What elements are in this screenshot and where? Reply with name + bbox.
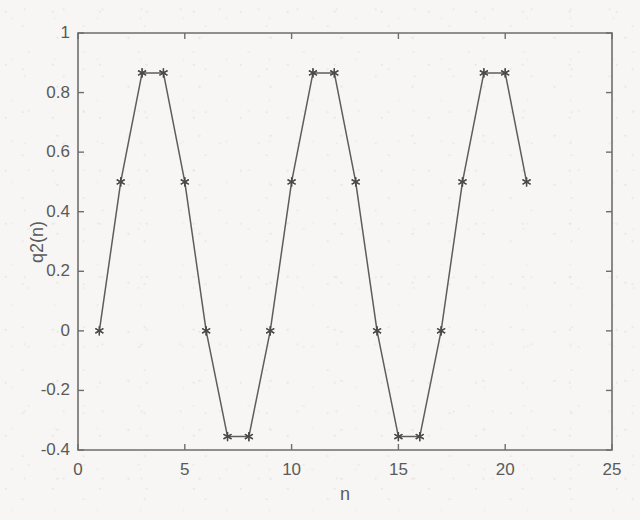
x-tick-label: 25 xyxy=(603,460,622,480)
x-tick-label: 15 xyxy=(389,460,408,480)
y-tick-label: 0.8 xyxy=(46,83,70,103)
x-tick-label: 20 xyxy=(496,460,515,480)
x-axis-label: n xyxy=(340,484,350,505)
y-tick-label: -0.4 xyxy=(41,440,70,460)
y-tick-label: 0 xyxy=(61,321,70,341)
axis-box xyxy=(78,33,612,450)
data-point-marker xyxy=(352,177,360,186)
y-tick-label: 0.2 xyxy=(46,261,70,281)
y-axis-label: q2(n) xyxy=(27,221,48,263)
data-point-marker xyxy=(437,326,445,335)
data-point-marker xyxy=(95,326,103,335)
data-point-marker xyxy=(181,177,189,186)
axes-frame xyxy=(78,33,612,450)
series-polyline xyxy=(99,73,526,437)
data-point-marker xyxy=(266,326,274,335)
x-tick-label: 0 xyxy=(73,460,82,480)
data-line xyxy=(99,73,526,437)
data-point-marker xyxy=(288,177,296,186)
data-point-marker xyxy=(117,177,125,186)
data-point-marker xyxy=(202,326,210,335)
x-tick-label: 5 xyxy=(180,460,189,480)
y-tick-label: 0.6 xyxy=(46,142,70,162)
data-point-marker xyxy=(459,177,467,186)
figure-canvas: -0.4-0.200.20.40.60.81 0510152025 n q2(n… xyxy=(0,0,640,520)
y-tick-label: 0.4 xyxy=(46,202,70,222)
y-tick-label: 1 xyxy=(61,23,70,43)
x-tick-label: 10 xyxy=(282,460,301,480)
data-markers xyxy=(95,68,530,441)
data-point-marker xyxy=(373,326,381,335)
tick-marks xyxy=(78,33,612,450)
plot-area xyxy=(0,0,640,520)
y-tick-label: -0.2 xyxy=(41,380,70,400)
data-point-marker xyxy=(523,177,531,186)
